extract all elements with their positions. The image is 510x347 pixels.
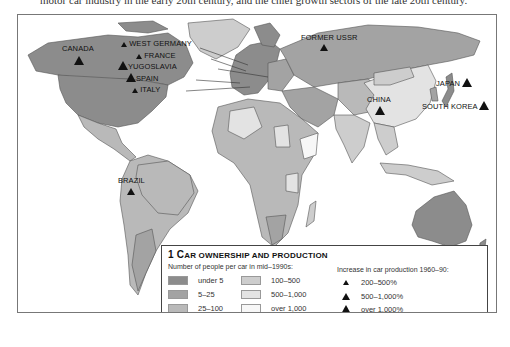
label-text: FORMER USSR (301, 33, 358, 42)
marker-canada (74, 56, 84, 66)
region-indonesia (380, 163, 454, 185)
label-yugoslavia: YUGOSLAVIA (118, 61, 177, 71)
legend-label: 5–25 (198, 290, 215, 299)
triangle-large-icon (341, 305, 351, 313)
map-frame: CANADA WEST GERMANY FRANCE YUGOSLAVIA SP… (17, 14, 497, 313)
triangle-large-icon (118, 61, 128, 70)
label-text: FRANCE (144, 51, 175, 60)
label-text: SPAIN (136, 74, 158, 83)
label-former-ussr: FORMER USSR (301, 33, 358, 42)
figure-caption: motor car industry in the early 20th cen… (40, 0, 510, 6)
label-text: WEST GERMANY (129, 39, 192, 48)
label-china: CHINA (367, 95, 391, 104)
legend-label: 100–500 (271, 276, 300, 285)
swatch (168, 290, 188, 299)
legend-item-over-1000-pct: over 1,000% (337, 305, 403, 313)
legend-item-5-25: 5–25 (168, 290, 215, 299)
triangle-large-icon (375, 106, 385, 115)
label-text: ITALY (140, 85, 160, 94)
legend-item-500-1000-pct: 500–1,000% (337, 292, 403, 301)
marker-china (375, 106, 385, 116)
region-argentina (132, 229, 156, 291)
triangle-medium-icon (320, 44, 328, 51)
label-japan: JAPAN (436, 78, 472, 88)
legend-item-over-1000: over 1,000 (241, 304, 306, 313)
region-africa (212, 99, 318, 247)
label-south-korea: SOUTH KOREA (422, 101, 489, 111)
swatch (241, 304, 261, 313)
label-text: BRAZIL (118, 176, 145, 185)
legend-label: 500–1,000% (361, 292, 403, 301)
legend-label: over 1,000% (361, 305, 403, 313)
triangle-medium-icon (127, 188, 135, 195)
marker-former-ussr (320, 43, 328, 52)
legend-item-200-500: 200–500% (337, 278, 397, 287)
legend-label: under 5 (198, 276, 223, 285)
triangle-small-icon (132, 88, 138, 93)
legend-title-rest: AR OWNERSHIP AND PRODUCTION (184, 251, 328, 260)
triangle-large-icon (126, 73, 136, 82)
label-italy: ITALY (132, 85, 160, 94)
label-text: JAPAN (436, 79, 460, 88)
triangle-small-icon (343, 280, 349, 285)
label-text: CANADA (62, 44, 94, 53)
swatch (168, 276, 188, 285)
swatch (241, 276, 261, 285)
label-canada: CANADA (62, 44, 94, 53)
label-text: YUGOSLAVIA (128, 62, 177, 71)
legend-item-25-100: 25–100 (168, 304, 223, 313)
triangle-small-icon (121, 42, 127, 47)
legend-title: 1 CAR OWNERSHIP AND PRODUCTION (168, 249, 328, 260)
label-text: SOUTH KOREA (422, 102, 477, 111)
label-text: CHINA (367, 95, 391, 104)
triangle-large-icon (74, 56, 84, 65)
legend-label: over 1,000 (271, 304, 306, 313)
swatch (168, 304, 188, 313)
marker-brazil (127, 187, 135, 196)
triangle-large-icon (479, 101, 489, 110)
triangle-large-icon (462, 78, 472, 87)
label-west-germany: WEST GERMANY (121, 39, 192, 48)
legend-item-under-5: under 5 (168, 276, 223, 285)
legend-label: 200–500% (361, 278, 397, 287)
triangle-small-icon (136, 54, 142, 59)
label-brazil: BRAZIL (118, 176, 145, 185)
map-legend: 1 CAR OWNERSHIP AND PRODUCTION Number of… (161, 245, 488, 313)
legend-label: 25–100 (198, 304, 223, 313)
production-heading: Increase in car production 1960–90: (337, 266, 449, 273)
legend-item-100-500: 100–500 (241, 276, 300, 285)
legend-number: 1 (168, 249, 174, 260)
region-india (334, 115, 370, 163)
swatch (241, 290, 261, 299)
legend-label: 500–1,000 (271, 290, 306, 299)
region-australia (412, 191, 472, 247)
label-france: FRANCE (136, 51, 176, 60)
legend-item-500-1000: 500–1,000 (241, 290, 306, 299)
ownership-heading: Number of people per car in mid–1990s: (168, 263, 293, 270)
label-spain: SPAIN (126, 73, 158, 83)
triangle-medium-icon (342, 293, 350, 300)
